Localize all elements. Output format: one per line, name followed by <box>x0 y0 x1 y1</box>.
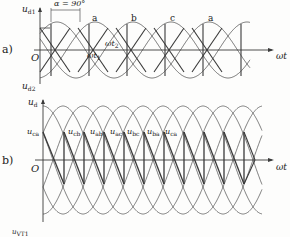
time-label-wt1: ωt1 <box>87 52 101 61</box>
phase-label-c: c <box>170 14 175 23</box>
output-ramp <box>43 132 64 184</box>
phase-label-a2: a <box>208 14 213 23</box>
line-voltage-label-uac: uac <box>110 128 122 137</box>
partial-label-uvt1: uVT1 <box>12 229 29 237</box>
output-tail <box>244 132 255 160</box>
line-voltage-label-uca: uca <box>27 128 39 137</box>
alpha-annotation: α = 90° <box>54 0 85 8</box>
line-voltage-label-uca2: uca <box>165 128 177 137</box>
x-axis-label-b: ωt <box>276 163 287 172</box>
panel-a-tag: a) <box>2 44 13 55</box>
axis-arrow-icon <box>41 99 45 104</box>
waveform-plot <box>0 0 290 237</box>
origin-label-b: O <box>31 164 39 174</box>
output-tail <box>244 160 255 184</box>
rectifier-waveform-figure: a) ud1 ud2 O ωt α = 90° a b c a ωt1 ωt2 … <box>0 0 290 237</box>
x-axis-label-a: ωt <box>276 52 287 61</box>
y-axis-label-ud1: ud1 <box>22 5 35 15</box>
axis-arrow-icon <box>268 158 274 162</box>
origin-label-a: O <box>31 53 39 63</box>
line-voltage-label-uab: uab <box>90 128 103 137</box>
panel-b-tag: b) <box>2 155 13 166</box>
y-axis-label-ud2: ud2 <box>22 82 35 92</box>
axis-arrow-icon <box>38 7 42 12</box>
time-label-wt2: ωt2 <box>105 40 119 49</box>
phase-label-b: b <box>131 14 137 23</box>
line-voltage-label-ubc: ubc <box>127 128 139 137</box>
phase-label-a: a <box>92 14 97 23</box>
axis-arrow-icon <box>268 48 274 52</box>
y-axis-label-ud: ud <box>28 98 38 108</box>
line-voltage-label-ucb: ucb <box>68 128 80 137</box>
line-voltage-label-uba: uba <box>147 128 160 137</box>
